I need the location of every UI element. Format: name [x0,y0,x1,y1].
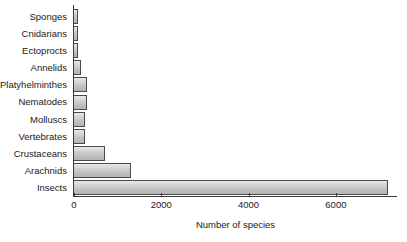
bar [74,9,78,24]
bar [74,163,131,178]
x-tick-mark [161,193,162,197]
bar [74,146,105,161]
bar-row [74,42,397,59]
x-tick-label: 2000 [151,199,172,210]
category-label: Molluscs [0,111,70,128]
bar [74,60,81,75]
bar-row [74,8,397,25]
bar [74,95,87,110]
bar-series [74,8,397,196]
category-label: Platyhelminthes [0,76,70,93]
species-bar-chart: SpongesCnidariansEctoproctsAnnelidsPlaty… [0,0,407,242]
bar-row [74,162,397,179]
x-tick-mark [249,193,250,197]
bar-row [74,93,397,110]
bar-row [74,111,397,128]
category-label: Ectoprocts [0,42,70,59]
category-axis-labels: SpongesCnidariansEctoproctsAnnelidsPlaty… [0,8,70,196]
bar-row [74,145,397,162]
category-label: Cnidarians [0,25,70,42]
category-label: Nematodes [0,93,70,110]
category-label: Sponges [0,8,70,25]
bar-row [74,25,397,42]
category-label: Crustaceans [0,145,70,162]
bar [74,26,78,41]
category-label: Insects [0,179,70,196]
x-tick-mark [336,193,337,197]
x-tick-mark [74,193,75,197]
bar [74,112,85,127]
x-tick-label: 4000 [238,199,259,210]
bar-row [74,128,397,145]
bar-row [74,59,397,76]
x-tick-label: 6000 [325,199,346,210]
x-axis-title: Number of species [74,219,397,230]
category-label: Vertebrates [0,128,70,145]
bar-row [74,76,397,93]
bar [74,129,85,144]
x-tick-label: 0 [71,199,76,210]
x-axis-ticks: 0200040006000 [74,197,397,221]
category-label: Annelids [0,59,70,76]
bar [74,77,87,92]
bar [74,180,388,195]
category-label: Arachnids [0,162,70,179]
bar-row [74,179,397,196]
bar [74,43,78,58]
